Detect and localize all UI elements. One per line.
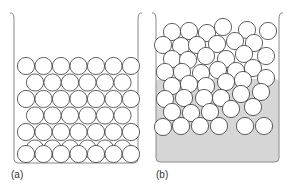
particle bbox=[255, 117, 272, 134]
particle bbox=[17, 145, 34, 162]
particle bbox=[52, 123, 69, 140]
particle bbox=[87, 90, 104, 107]
particle bbox=[114, 74, 131, 91]
particle bbox=[61, 74, 78, 91]
panel-b-label: (b) bbox=[156, 169, 168, 180]
particle bbox=[252, 83, 269, 100]
particle bbox=[96, 107, 113, 124]
particle bbox=[17, 123, 34, 140]
particle bbox=[122, 123, 139, 140]
particle bbox=[17, 90, 34, 107]
particle bbox=[105, 57, 122, 74]
particle bbox=[26, 107, 43, 124]
particle bbox=[232, 85, 249, 102]
particle bbox=[52, 57, 69, 74]
panel-a-ordered-packing bbox=[10, 13, 142, 163]
particle bbox=[26, 74, 43, 91]
particle bbox=[105, 90, 122, 107]
particle bbox=[70, 90, 87, 107]
particle bbox=[222, 100, 239, 117]
particle bbox=[35, 145, 52, 162]
particle bbox=[105, 145, 122, 162]
particle bbox=[87, 123, 104, 140]
particle bbox=[61, 107, 78, 124]
particle bbox=[257, 47, 274, 64]
particle bbox=[87, 145, 104, 162]
particle bbox=[79, 107, 96, 124]
particle bbox=[154, 118, 171, 135]
particle bbox=[114, 107, 131, 124]
particle bbox=[172, 117, 189, 134]
particle bbox=[175, 89, 192, 106]
particle bbox=[87, 57, 104, 74]
particle bbox=[122, 145, 139, 162]
particle bbox=[35, 123, 52, 140]
particle bbox=[210, 117, 227, 134]
particle bbox=[52, 90, 69, 107]
particle bbox=[122, 90, 139, 107]
particle bbox=[96, 74, 113, 91]
particle bbox=[236, 117, 253, 134]
particle bbox=[35, 57, 52, 74]
particle bbox=[70, 145, 87, 162]
particle bbox=[70, 57, 87, 74]
particle bbox=[259, 22, 276, 39]
particle bbox=[70, 123, 87, 140]
particle bbox=[122, 57, 139, 74]
particle bbox=[44, 74, 61, 91]
particle bbox=[52, 145, 69, 162]
particle bbox=[191, 117, 208, 134]
particle bbox=[35, 90, 52, 107]
particle bbox=[105, 123, 122, 140]
particle bbox=[44, 107, 61, 124]
particle bbox=[197, 47, 214, 64]
particle bbox=[79, 74, 96, 91]
panel-b-random-packing bbox=[152, 13, 283, 162]
particle bbox=[214, 18, 231, 35]
particle bbox=[217, 73, 234, 90]
particle bbox=[244, 98, 261, 115]
panel-a-label: (a) bbox=[11, 169, 23, 180]
packing-diagram bbox=[0, 0, 291, 186]
particle bbox=[17, 57, 34, 74]
